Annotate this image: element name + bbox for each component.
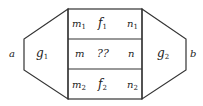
label-g1: g1	[36, 46, 48, 61]
label-g2: g2	[157, 46, 169, 61]
label-unknown: ??	[97, 47, 109, 60]
label-b: b	[190, 48, 196, 59]
label-f1: f1	[97, 16, 107, 31]
label-m1: m1	[72, 18, 86, 31]
label-n1: n1	[127, 18, 138, 31]
label-n2: n2	[127, 79, 138, 92]
label-n: n	[128, 48, 134, 59]
label-m: m	[75, 48, 84, 59]
diagram-canvas: a b g1 g2 m1 f1 n1 m ?? n m2 f2 n2	[0, 0, 203, 106]
label-a: a	[9, 48, 15, 59]
label-f2: f2	[97, 77, 107, 92]
label-m2: m2	[72, 79, 86, 92]
